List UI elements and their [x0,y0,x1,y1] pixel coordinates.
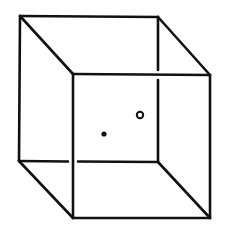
necker-cube-diagram [0,0,231,234]
hollow-circle-marker [137,112,143,118]
back-left-edge [19,16,20,161]
cube-figure [0,0,231,234]
front-top-edge [73,74,210,75]
back-top-edge [20,16,158,17]
back-bottom-edge-left [19,161,68,162]
back-bottom-edge-right [78,162,158,163]
connector-top-left [20,16,73,74]
connector-bottom-left [19,161,73,218]
connector-top-right [158,17,210,75]
filled-dot-marker [101,131,106,136]
connector-bottom-right [158,162,210,218]
